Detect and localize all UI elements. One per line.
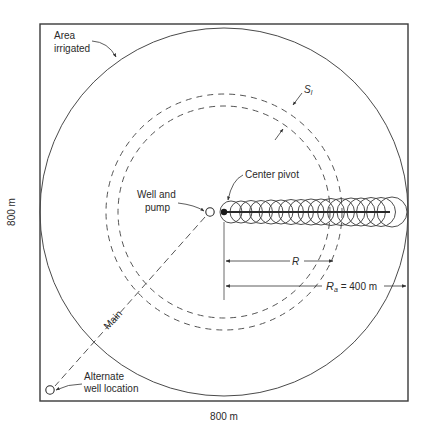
area-irrigated-leader [92, 41, 116, 57]
outer-radius-label: Ra = 400 m [326, 280, 377, 293]
alternate-well-leader [56, 384, 82, 390]
alternate-well-icon [46, 386, 54, 394]
area-irrigated-label: Area [54, 30, 76, 41]
spacing-arrow-outer [293, 93, 302, 105]
center-pivot-point [221, 209, 227, 215]
field-height-label: 800 m [6, 198, 17, 226]
center-pivot-label: Center pivot [245, 169, 299, 180]
center-pivot-diagram: Main Area irriga [0, 0, 426, 432]
well-pump-label-2: pump [145, 202, 170, 213]
radius-label: R [292, 256, 299, 267]
center-pivot-leader [228, 175, 243, 200]
area-irrigated-label-2: irrigated [54, 43, 90, 54]
spacing-arrow-inner [275, 129, 283, 140]
alternate-well-label: Alternate [84, 371, 124, 382]
field-width-label: 800 m [210, 411, 238, 422]
well-leader [178, 203, 204, 211]
main-pipeline [55, 217, 205, 386]
spacing-label: Sl [304, 84, 313, 96]
well-pump-label: Well and [137, 189, 176, 200]
alternate-well-label-2: well location [83, 383, 138, 394]
well-icon [206, 208, 214, 216]
